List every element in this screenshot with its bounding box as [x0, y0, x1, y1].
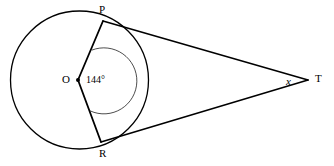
- geometry-canvas: [0, 0, 334, 166]
- tangent-pt-line: [103, 21, 308, 80]
- tangent-rt-line: [101, 80, 308, 142]
- vertex-label-t: T: [315, 73, 322, 84]
- vertex-label-r: R: [99, 148, 106, 159]
- center-point-dot: [76, 78, 80, 82]
- center-label-o: O: [62, 74, 70, 85]
- central-angle-value-label: 144°: [86, 75, 105, 85]
- radius-op-line: [78, 21, 103, 80]
- unknown-angle-label-x: x: [286, 76, 291, 87]
- radius-or-line: [78, 80, 101, 142]
- geometry-figure: P R T O x 144°: [0, 0, 334, 166]
- vertex-label-p: P: [99, 4, 105, 15]
